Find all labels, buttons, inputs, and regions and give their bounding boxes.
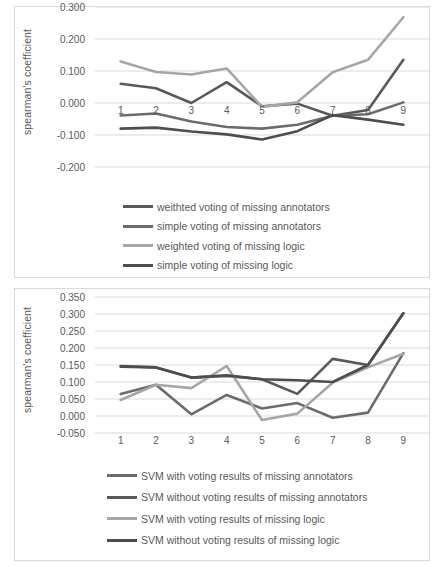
legend-item: simple voting of missing annotators <box>123 217 429 237</box>
legend-label: SVM with voting results of missing annot… <box>141 470 353 482</box>
y-tick-label: 0.200 <box>60 34 85 45</box>
y-tick-label: -0.100 <box>57 130 85 141</box>
y-tick-label: 0.050 <box>60 394 85 405</box>
legend-label: simple voting of missing logic <box>157 259 293 271</box>
x-tick-label: 4 <box>224 435 230 446</box>
legend-top: weithted voting of missing annotatorssim… <box>15 197 429 275</box>
y-axis-ticks-bottom: 0.3500.3000.2500.2000.1500.1000.0500.000… <box>39 297 85 433</box>
legend-item: weithted voting of missing annotators <box>123 197 429 217</box>
legend-item: weighted voting of missing logic <box>123 236 429 256</box>
y-axis-title-top: spearman's coefficient <box>17 0 37 217</box>
y-tick-label: 0.000 <box>60 98 85 109</box>
legend-swatch <box>107 539 137 542</box>
x-tick-label: 8 <box>365 435 371 446</box>
x-axis-ticks-top: 123456789 <box>103 7 421 167</box>
x-tick-label: 2 <box>153 435 159 446</box>
x-tick-label: 1 <box>118 435 124 446</box>
y-tick-label: 0.350 <box>60 292 85 303</box>
x-tick-label: 5 <box>259 435 265 446</box>
y-tick-label: 0.200 <box>60 343 85 354</box>
legend-label: simple voting of missing annotators <box>157 220 321 232</box>
x-axis-ticks-bottom: 123456789 <box>103 297 421 433</box>
y-tick-label: 0.300 <box>60 2 85 13</box>
legend-swatch <box>123 264 153 267</box>
legend-swatch <box>107 496 137 499</box>
y-tick-label: 0.100 <box>60 377 85 388</box>
legend-item: SVM with voting results of missing logic <box>107 508 429 530</box>
x-tick-label: 9 <box>401 435 407 446</box>
legend-label: SVM without voting results of missing lo… <box>141 534 339 546</box>
y-tick-label: 0.100 <box>60 66 85 77</box>
y-tick-label: 0.000 <box>60 411 85 422</box>
legend-item: simple voting of missing logic <box>123 256 429 276</box>
chart-panel-top: spearman's coefficient 0.3000.2000.1000.… <box>14 6 430 278</box>
y-tick-label: -0.200 <box>57 162 85 173</box>
x-tick-label: 1 <box>118 105 124 116</box>
y-tick-label: 0.300 <box>60 309 85 320</box>
legend-item: SVM with voting results of missing annot… <box>107 465 429 487</box>
legend-label: SVM without voting results of missing an… <box>141 491 367 503</box>
y-tick-label: 0.250 <box>60 326 85 337</box>
y-tick-label: 0.150 <box>60 360 85 371</box>
x-tick-label: 7 <box>330 105 336 116</box>
y-axis-ticks-top: 0.3000.2000.1000.000-0.100-0.200 <box>39 7 85 167</box>
x-tick-label: 6 <box>295 435 301 446</box>
legend-label: weithted voting of missing annotators <box>157 201 330 213</box>
x-tick-label: 3 <box>189 435 195 446</box>
legend-label: SVM with voting results of missing logic <box>141 513 325 525</box>
x-tick-label: 8 <box>365 105 371 116</box>
legend-swatch <box>123 225 153 228</box>
plot-wrapper-top: spearman's coefficient 0.3000.2000.1000.… <box>15 7 429 277</box>
legend-item: SVM without voting results of missing an… <box>107 487 429 509</box>
x-tick-label: 2 <box>153 105 159 116</box>
x-tick-label: 5 <box>259 105 265 116</box>
plot-wrapper-bottom: spearman's coefficient 0.3500.3000.2500.… <box>15 289 429 560</box>
x-tick-label: 4 <box>224 105 230 116</box>
legend-bottom: SVM with voting results of missing annot… <box>15 465 429 551</box>
chart-panel-bottom: spearman's coefficient 0.3500.3000.2500.… <box>14 288 430 561</box>
legend-item: SVM without voting results of missing lo… <box>107 530 429 552</box>
y-tick-label: -0.050 <box>57 428 85 439</box>
figure-container: spearman's coefficient 0.3000.2000.1000.… <box>0 0 447 567</box>
x-tick-label: 6 <box>295 105 301 116</box>
legend-swatch <box>123 205 153 208</box>
x-tick-label: 9 <box>401 105 407 116</box>
legend-swatch <box>123 244 153 247</box>
legend-swatch <box>107 517 137 520</box>
legend-swatch <box>107 474 137 477</box>
x-tick-label: 3 <box>189 105 195 116</box>
x-tick-label: 7 <box>330 435 336 446</box>
legend-label: weighted voting of missing logic <box>157 240 305 252</box>
